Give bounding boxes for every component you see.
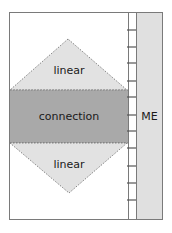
structure-diagram: linear connection linear ME: [0, 0, 172, 233]
bottom-linear-label: linear: [53, 158, 85, 171]
diagram-canvas: linear connection linear ME: [0, 0, 172, 233]
top-linear-label: linear: [53, 64, 85, 77]
ladder-column: [129, 13, 137, 220]
connection-label: connection: [39, 110, 100, 123]
me-label: ME: [141, 110, 157, 123]
